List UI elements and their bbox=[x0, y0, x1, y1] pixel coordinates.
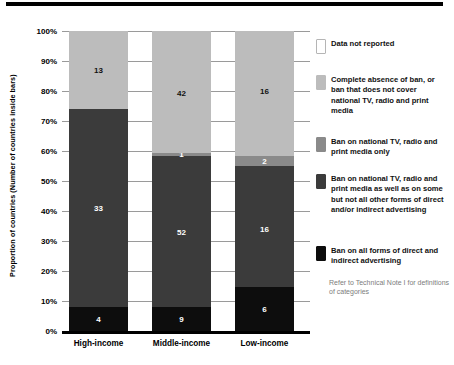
bar-segment[interactable] bbox=[152, 31, 211, 153]
x-category-label-low-income: Low-income bbox=[205, 339, 325, 348]
legend-swatch-icon bbox=[316, 137, 326, 152]
legend-item[interactable]: Ban on national TV, radio and print medi… bbox=[316, 174, 447, 216]
legend-item-label: Ban on all forms of direct and indirect … bbox=[331, 246, 447, 267]
y-tick-label: 40% bbox=[41, 207, 57, 216]
bar-segment[interactable] bbox=[69, 31, 128, 109]
legend-item[interactable]: Ban on national TV, radio and print medi… bbox=[316, 137, 447, 158]
y-tick-label: 100% bbox=[37, 27, 57, 36]
legend-note: Refer to Technical Note I for definition… bbox=[329, 278, 454, 297]
legend-item[interactable]: Complete absence of ban, or ban that doe… bbox=[316, 75, 447, 117]
legend-item-label: Ban on national TV, radio and print medi… bbox=[331, 174, 447, 216]
legend-swatch-icon bbox=[316, 39, 326, 54]
legend-item[interactable]: Data not reported bbox=[316, 39, 447, 54]
bar-segment[interactable] bbox=[152, 153, 211, 156]
bar-segment[interactable] bbox=[152, 156, 211, 307]
y-tick-label: 30% bbox=[41, 237, 57, 246]
y-tick-label: 50% bbox=[41, 177, 57, 186]
y-tick-label: 70% bbox=[41, 117, 57, 126]
legend-item[interactable]: Ban on all forms of direct and indirect … bbox=[316, 246, 447, 267]
top-rule-divider bbox=[6, 2, 443, 6]
y-axis-title: Proportion of countries (Number of count… bbox=[9, 26, 16, 326]
plot-area: 100%90%80%70%60%50%40%30%20%10%0%4331395… bbox=[62, 31, 310, 331]
bar-segment[interactable] bbox=[69, 307, 128, 331]
bar-segment[interactable] bbox=[152, 307, 211, 331]
bar-segment[interactable] bbox=[69, 109, 128, 307]
legend-item-label: Ban on national TV, radio and print medi… bbox=[331, 137, 447, 158]
bar-segment[interactable] bbox=[235, 31, 294, 156]
bar-segment[interactable] bbox=[235, 166, 294, 287]
bar-high-income[interactable]: 43313 bbox=[69, 31, 128, 331]
y-tick-label: 10% bbox=[41, 297, 57, 306]
legend-swatch-icon bbox=[316, 174, 326, 189]
bar-middle-income[interactable]: 952142 bbox=[152, 31, 211, 331]
legend-item-label: Data not reported bbox=[331, 39, 447, 49]
y-tick-label: 60% bbox=[41, 147, 57, 156]
y-tick-label: 20% bbox=[41, 267, 57, 276]
bar-segment[interactable] bbox=[235, 287, 294, 331]
bar-segment[interactable] bbox=[235, 156, 294, 167]
y-tick-label: 90% bbox=[41, 57, 57, 66]
y-tick-label: 0% bbox=[45, 327, 57, 336]
y-tick-label: 80% bbox=[41, 87, 57, 96]
x-axis-baseline bbox=[62, 331, 310, 334]
bar-low-income[interactable]: 616216 bbox=[235, 31, 294, 331]
legend-swatch-icon bbox=[316, 246, 326, 261]
legend-item-label: Complete absence of ban, or ban that doe… bbox=[331, 75, 447, 117]
legend-swatch-icon bbox=[316, 75, 326, 90]
